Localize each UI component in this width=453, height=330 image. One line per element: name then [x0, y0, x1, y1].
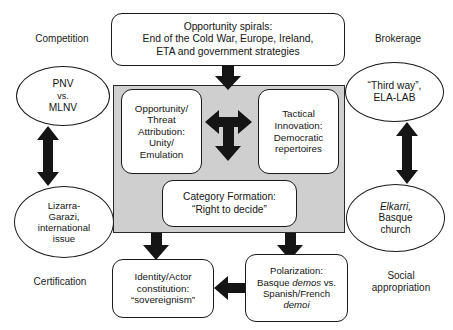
caption-competition: Competition	[16, 33, 108, 45]
arrow-spirals-to-panel	[215, 64, 241, 90]
identity-line-3: “sovereignism”	[131, 294, 195, 305]
elkarri-line-3: church	[380, 224, 410, 235]
social-appropriation-line-2: appropriation	[372, 282, 430, 293]
attribution-line-5: Emulation	[140, 149, 184, 160]
caption-brokerage: Brokerage	[352, 33, 444, 45]
box-category-formation[interactable]: Category Formation: “Right to decide”	[162, 180, 297, 227]
ellipse-third-way-ela-lab[interactable]: “Third way”, ELA-LAB	[345, 62, 444, 122]
ellipse-pnv-mlnv[interactable]: PNV vs. MLNV	[16, 66, 110, 126]
attribution-line-2: Threat	[147, 114, 175, 125]
category-line-1: Category Formation:	[183, 191, 276, 202]
elkarri-line-2: Basque	[379, 212, 413, 223]
polarization-line-3: Spanish/French	[263, 288, 330, 299]
elkarri-line-1: Elkarri,	[380, 201, 411, 212]
category-line-2: “Right to decide”	[192, 204, 267, 215]
attribution-line-4: Unity/	[149, 137, 174, 148]
pnv-mlnv-line-1: PNV	[53, 78, 74, 89]
box-identity-actor-constitution[interactable]: Identity/Actor constitution: “sovereigni…	[112, 259, 214, 318]
pnv-mlnv-line-3: MLNV	[49, 102, 77, 113]
diagram-canvas: Opportunity spirals: End of the Cold War…	[0, 0, 453, 330]
polarization-line-2: Basque demos vs.	[257, 277, 336, 288]
arrow-panel-to-identity	[143, 233, 169, 260]
third-way-line-1: “Third way”,	[368, 80, 422, 91]
ellipse-lizarra-garazi[interactable]: Lizarra- Garazi, international issue	[14, 186, 114, 258]
attribution-line-1: Opportunity/	[135, 103, 188, 114]
tactical-line-2: Innovation:	[275, 120, 323, 131]
box-opportunity-spirals[interactable]: Opportunity spirals: End of the Cold War…	[111, 13, 345, 66]
polarization-line-4: demoi	[283, 299, 309, 310]
attribution-line-3: Attribution:	[138, 126, 185, 137]
box-polarization[interactable]: Polarization: Basque demos vs. Spanish/F…	[245, 254, 348, 322]
lizarra-line-3: international	[38, 222, 90, 233]
arrow-thirdway-to-elkarri	[396, 122, 418, 184]
ellipse-elkarri-basque-church[interactable]: Elkarri, Basque church	[346, 184, 445, 252]
lizarra-line-4: issue	[53, 233, 75, 244]
third-way-line-2: ELA-LAB	[374, 92, 416, 103]
box-opportunity-threat-attribution[interactable]: Opportunity/ Threat Attribution: Unity/ …	[121, 89, 202, 174]
tactical-line-1: Tactical	[282, 108, 315, 119]
tactical-line-3: Democratic	[274, 132, 324, 143]
tactical-line-4: repertoires	[275, 143, 322, 154]
lizarra-line-2: Garazi,	[49, 211, 80, 222]
arrow-pnv-to-lizarra	[37, 126, 59, 186]
opportunity-spirals-line-1: Opportunity spirals:	[184, 21, 273, 32]
caption-social-appropriation: Social appropriation	[352, 270, 450, 294]
arrow-attribution-innovation-tee	[205, 110, 252, 161]
pnv-mlnv-line-2: vs.	[57, 91, 69, 101]
box-tactical-innovation[interactable]: Tactical Innovation: Democratic repertoi…	[258, 89, 339, 174]
opportunity-spirals-line-3: ETA and government strategies	[156, 46, 299, 57]
identity-line-1: Identity/Actor	[134, 271, 191, 282]
opportunity-spirals-line-2: End of the Cold War, Europe, Ireland,	[143, 33, 314, 44]
lizarra-line-1: Lizarra-	[48, 200, 81, 211]
identity-line-2: constitution:	[137, 283, 189, 294]
social-appropriation-line-1: Social	[387, 270, 414, 281]
caption-certification: Certification	[12, 276, 108, 288]
polarization-line-1: Polarization:	[270, 265, 323, 276]
